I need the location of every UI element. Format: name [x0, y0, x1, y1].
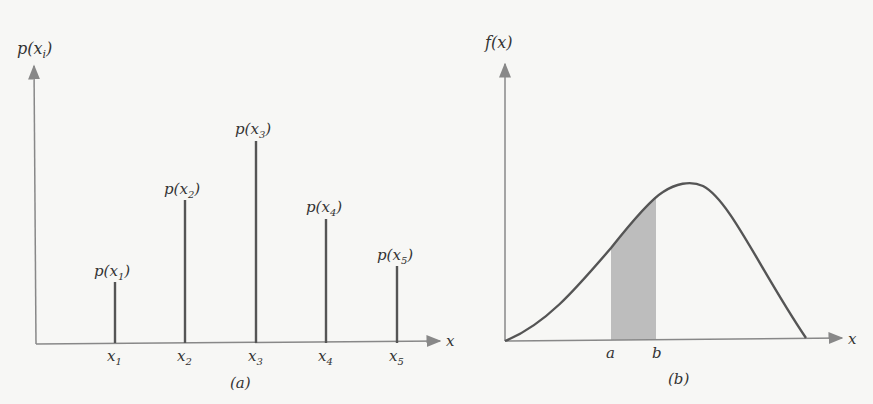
tick-label-x2: x2 — [177, 347, 192, 367]
panel-b-caption: (b) — [668, 370, 689, 388]
panel-a-x-axis — [36, 341, 440, 344]
panel-a-caption: (a) — [230, 374, 251, 392]
tick-label-x5: x5 — [389, 347, 404, 367]
tick-label-x1: x1 — [107, 347, 122, 367]
tick-label-b: b — [652, 344, 662, 362]
stem-label-p-x3: p(x3) — [235, 120, 271, 140]
shaded-area-a-to-b — [611, 196, 656, 340]
stem-label-p-x4: p(x4) — [306, 198, 342, 218]
panel-b-continuous-pdf: f(x) x a b (b) — [484, 33, 857, 388]
panel-b-x-label: x — [848, 330, 857, 348]
panel-a-y-label: p(xi) — [17, 39, 52, 61]
panel-a-discrete-pmf: p(xi) x p(x1) p(x2) p(x3) p(x4) p(x5) x1… — [17, 39, 455, 392]
panel-b-x-axis — [505, 338, 842, 341]
figure-canvas: p(xi) x p(x1) p(x2) p(x3) p(x4) p(x5) x1… — [0, 0, 873, 404]
tick-label-x3: x3 — [248, 347, 263, 367]
panel-b-y-label: f(x) — [484, 33, 512, 52]
panel-a-x-label: x — [446, 332, 455, 350]
stem-label-p-x5: p(x5) — [377, 246, 413, 266]
stem-label-p-x1: p(x1) — [94, 262, 130, 282]
panel-a-y-axis — [34, 66, 36, 344]
tick-label-a: a — [606, 344, 615, 362]
tick-label-x4: x4 — [318, 347, 333, 367]
stem-label-p-x2: p(x2) — [164, 180, 200, 200]
